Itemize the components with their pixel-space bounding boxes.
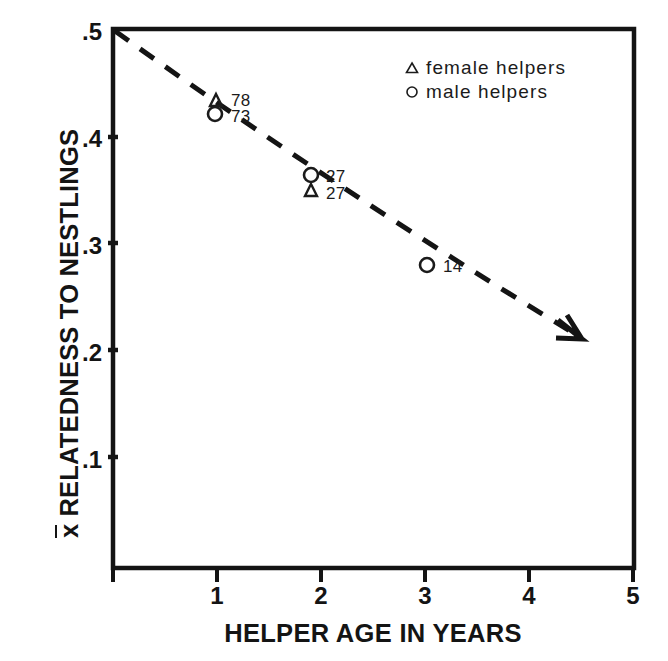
point-label-14: 14 [443, 258, 463, 275]
data-point-circle-73 [208, 107, 222, 121]
frame-box [113, 29, 634, 568]
legend-item-female-helpers: female helpers [404, 56, 566, 80]
legend: female helpers male helpers [404, 56, 566, 104]
data-point-circle-27 [304, 168, 318, 182]
data-point-circle-14 [420, 258, 434, 272]
data-point-triangle-27 [305, 184, 317, 196]
point-label-27-male: 27 [326, 168, 346, 185]
plot-area [0, 0, 668, 661]
legend-item-male-helpers: male helpers [404, 80, 566, 104]
legend-label-female-helpers: female helpers [426, 57, 566, 79]
legend-circle-icon [404, 84, 426, 100]
point-label-73: 73 [231, 108, 251, 125]
legend-label-male-helpers: male helpers [426, 81, 548, 103]
axis-frame [113, 29, 634, 568]
figure-scatter-relatedness: xRELATEDNESS TO NESTLINGS HELPER AGE IN … [0, 0, 668, 661]
legend-triangle-icon [404, 60, 426, 76]
point-label-27-female: 27 [326, 185, 346, 202]
